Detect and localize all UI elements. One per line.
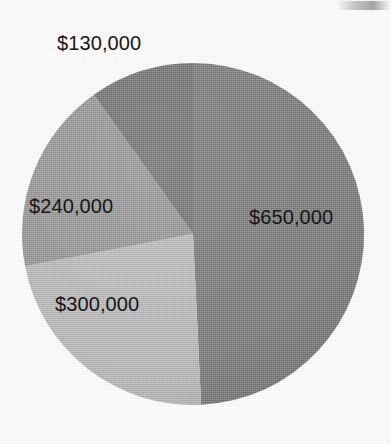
pie-label-300000: $300,000 xyxy=(55,294,139,314)
pie-chart: $130,000 $240,000 $300,000 $650,000 xyxy=(0,0,391,444)
pie-label-130000: $130,000 xyxy=(57,33,141,53)
pie-shading-overlay xyxy=(22,63,364,405)
pie-label-240000: $240,000 xyxy=(29,196,113,216)
pie-label-650000: $650,000 xyxy=(249,207,333,227)
